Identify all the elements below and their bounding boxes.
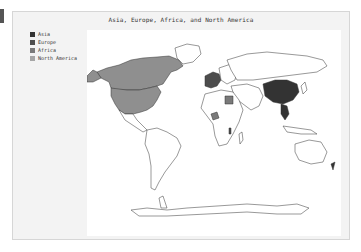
legend-label: North America [38,55,77,61]
legend-item-north-america: North America [30,54,77,62]
region-new-zealand [331,162,335,170]
legend-label: Africa [38,47,56,53]
region-europe-west [205,72,221,88]
legend-item-europe: Europe [30,38,77,46]
world-map-svg [87,30,341,236]
legend: Asia Europe Africa North America [30,30,77,62]
map-title: Asia, Europe, Africa, and North America [13,16,349,23]
region-china [263,80,299,104]
legend-swatch-africa [30,48,35,53]
region-south-america [145,128,181,190]
legend-label: Asia [38,31,50,37]
legend-label: Europe [38,39,56,45]
legend-swatch-north-america [30,56,35,61]
region-antarctic-peninsula [159,196,167,208]
region-russia [227,52,327,80]
region-madagascar [239,132,243,144]
region-usa [111,86,161,114]
region-indonesia [283,126,317,134]
region-malawi [229,128,231,134]
region-japan [301,82,307,94]
region-antarctica [131,204,309,216]
legend-item-africa: Africa [30,46,77,54]
legend-swatch-europe [30,40,35,45]
legend-swatch-asia [30,32,35,37]
side-marker [0,9,4,23]
region-canada [97,56,183,90]
legend-item-asia: Asia [30,30,77,38]
region-se-asia [281,104,289,120]
map-panel: Asia, Europe, Africa, and North America … [12,11,350,240]
region-africa [201,90,243,146]
world-map [87,30,341,236]
region-egypt [225,96,233,104]
region-australia [295,140,327,164]
